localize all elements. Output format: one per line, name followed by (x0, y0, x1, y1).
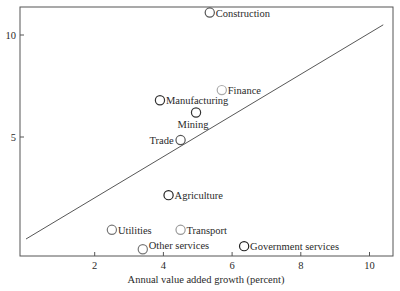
scatter-chart: 510 246810 ConstructionFinanceManufactur… (0, 0, 400, 291)
y-axis-ticks: 510 (6, 30, 25, 143)
circle-marker-icon (240, 242, 249, 251)
data-point: Agriculture (164, 190, 223, 201)
circle-marker-icon (176, 135, 185, 144)
data-point: Transport (176, 225, 227, 236)
point-label: Transport (187, 225, 228, 236)
x-tick-label: 4 (161, 260, 167, 271)
y-tick-label: 10 (6, 30, 17, 41)
point-label: Utilities (118, 225, 152, 236)
circle-marker-icon (217, 85, 226, 94)
data-point: Other services (138, 240, 209, 254)
data-point: Utilities (107, 225, 151, 236)
data-points: ConstructionFinanceManufacturingMiningTr… (107, 8, 339, 254)
x-tick-label: 10 (364, 260, 375, 271)
point-label: Government services (250, 241, 339, 252)
x-tick-label: 8 (298, 260, 303, 271)
point-label: Finance (228, 85, 262, 96)
point-label: Mining (178, 119, 210, 130)
x-axis-label: Annual value added growth (percent) (128, 274, 285, 286)
y-tick-label: 5 (11, 132, 16, 143)
reference-line (26, 25, 383, 239)
circle-marker-icon (164, 191, 173, 200)
data-point: Trade (149, 135, 185, 146)
plot-frame (20, 7, 393, 256)
circle-marker-icon (176, 225, 185, 234)
circle-marker-icon (138, 245, 147, 254)
x-tick-label: 6 (229, 260, 234, 271)
data-point: Manufacturing (155, 95, 229, 106)
point-label: Trade (149, 135, 173, 146)
point-label: Other services (149, 240, 209, 251)
x-axis-ticks: 246810 (92, 252, 375, 271)
circle-marker-icon (155, 96, 164, 105)
circle-marker-icon (205, 8, 214, 17)
data-point: Construction (205, 8, 271, 19)
point-label: Agriculture (175, 190, 224, 201)
circle-marker-icon (107, 225, 116, 234)
circle-marker-icon (191, 108, 200, 117)
point-label: Construction (216, 8, 271, 19)
x-tick-label: 2 (92, 260, 97, 271)
point-label: Manufacturing (166, 95, 229, 106)
data-point: Government services (240, 241, 340, 252)
data-point: Mining (178, 108, 210, 130)
